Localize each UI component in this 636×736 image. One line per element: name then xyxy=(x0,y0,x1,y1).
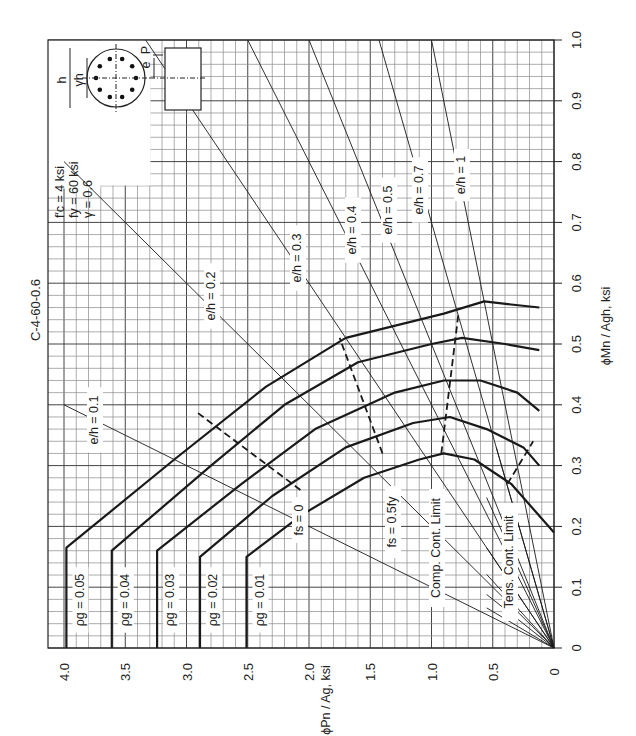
comp-limit-label: Comp. Cont. Limit xyxy=(429,489,445,607)
svg-text:0.2: 0.2 xyxy=(569,517,584,535)
fs05-label: fs = 0.5fy xyxy=(385,486,401,558)
interaction-diagram: 00.51.01.52.02.53.03.54.000.10.20.30.40.… xyxy=(0,0,636,736)
rho-label: ρg = 0.03 xyxy=(163,567,179,632)
rho-curve xyxy=(200,417,539,648)
svg-text:ρg = 0.05: ρg = 0.05 xyxy=(73,574,87,627)
svg-text:e/h = 0.4: e/h = 0.4 xyxy=(345,205,359,254)
eh-label: e/h = 0.4 xyxy=(345,197,361,262)
x-axis-title: ϕMn / Agh, ksi xyxy=(599,287,613,366)
svg-text:ϕPn / Ag, ksi: ϕPn / Ag, ksi xyxy=(319,665,333,735)
svg-text:4.0: 4.0 xyxy=(57,663,72,681)
rho-label: ρg = 0.05 xyxy=(72,567,88,632)
fs0-label: fs = 0 xyxy=(292,497,308,543)
svg-text:e: e xyxy=(139,61,153,68)
param-gamma: γ = 0.6 xyxy=(81,180,95,218)
eh-label: e/h = 0.3 xyxy=(290,225,306,290)
svg-text:e/h = 0.7: e/h = 0.7 xyxy=(412,165,426,214)
svg-text:e/h = 0.1: e/h = 0.1 xyxy=(87,395,101,444)
svg-text:0.7: 0.7 xyxy=(569,213,584,231)
eh-label: e/h = 0.1 xyxy=(87,387,103,452)
svg-text:1.5: 1.5 xyxy=(363,663,378,681)
svg-text:2.5: 2.5 xyxy=(241,663,256,681)
svg-text:e/h = 0.3: e/h = 0.3 xyxy=(290,233,304,282)
svg-text:fs = 0.5fy: fs = 0.5fy xyxy=(385,496,399,548)
eh-label: e/h = 0.7 xyxy=(412,157,428,222)
svg-text:0.8: 0.8 xyxy=(569,153,584,171)
svg-text:0.4: 0.4 xyxy=(569,396,584,414)
svg-text:ϕMn / Agh, ksi: ϕMn / Agh, ksi xyxy=(599,287,613,366)
svg-text:ρg = 0.02: ρg = 0.02 xyxy=(206,574,220,627)
svg-text:fs = 0: fs = 0 xyxy=(292,504,306,535)
svg-text:0: 0 xyxy=(547,668,562,675)
chart-title: C-4-60-0.6 xyxy=(28,279,43,341)
svg-text:ρg = 0.04: ρg = 0.04 xyxy=(118,574,132,627)
eh-label: e/h = 1 xyxy=(454,149,470,201)
svg-text:0.6: 0.6 xyxy=(569,274,584,292)
rho-label: ρg = 0.01 xyxy=(253,567,269,632)
svg-text:3.0: 3.0 xyxy=(180,663,195,681)
svg-text:e/h = 0.5: e/h = 0.5 xyxy=(381,185,395,234)
param-fc: f′c = 4 ksi xyxy=(53,166,67,218)
param-fy: fy = 60 ksi xyxy=(67,161,81,218)
svg-text:3.5: 3.5 xyxy=(118,663,133,681)
rho-curves xyxy=(66,301,554,648)
eh-label: e/h = 0.5 xyxy=(381,177,397,242)
svg-text:γh: γh xyxy=(72,73,86,86)
annotations: C-4-60-0.6f′c = 4 ksify = 60 ksiγ = 0.6ρ… xyxy=(28,149,613,735)
svg-text:h: h xyxy=(55,76,69,83)
svg-text:ρg = 0.01: ρg = 0.01 xyxy=(253,574,267,627)
rho-label: ρg = 0.02 xyxy=(206,567,222,632)
svg-text:P: P xyxy=(139,46,153,54)
svg-text:0.5: 0.5 xyxy=(569,335,584,353)
svg-text:0.5: 0.5 xyxy=(486,663,501,681)
svg-text:2.0: 2.0 xyxy=(302,663,317,681)
tens-limit-label: Tens. Cont. Limit xyxy=(502,503,518,621)
svg-text:ρg = 0.03: ρg = 0.03 xyxy=(163,574,177,627)
svg-text:0.1: 0.1 xyxy=(569,578,584,596)
eh-label: e/h = 0.2 xyxy=(204,263,220,328)
svg-text:1.0: 1.0 xyxy=(569,31,584,49)
svg-text:e/h = 0.2: e/h = 0.2 xyxy=(204,271,218,320)
svg-text:1.0: 1.0 xyxy=(425,663,440,681)
y-axis-title: ϕPn / Ag, ksi xyxy=(319,665,333,735)
svg-text:e/h = 1: e/h = 1 xyxy=(454,156,468,195)
svg-text:Comp. Cont. Limit: Comp. Cont. Limit xyxy=(429,497,443,598)
svg-text:0.9: 0.9 xyxy=(569,92,584,110)
svg-text:0.3: 0.3 xyxy=(569,457,584,475)
svg-text:Tens. Cont. Limit: Tens. Cont. Limit xyxy=(502,515,516,609)
svg-text:0: 0 xyxy=(569,644,584,651)
rho-label: ρg = 0.04 xyxy=(118,567,134,632)
